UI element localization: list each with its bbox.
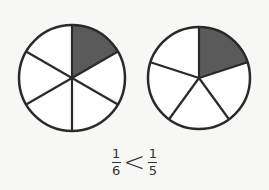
less-than-sign: < (124, 149, 146, 175)
numerator: 1 (149, 147, 157, 161)
denominator: 5 (149, 164, 157, 178)
fraction-one-fifth: 1 5 (148, 147, 157, 178)
fraction-one-sixth: 1 6 (112, 147, 121, 178)
circle-sixths (19, 25, 125, 131)
denominator: 6 (112, 164, 120, 178)
numerator: 1 (112, 147, 120, 161)
comparison-caption: 1 6 < 1 5 (0, 140, 269, 184)
circle-fifths (148, 27, 250, 129)
